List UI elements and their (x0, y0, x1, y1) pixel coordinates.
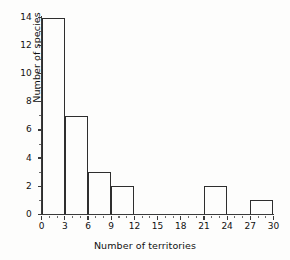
x-tick-major (111, 216, 112, 220)
x-tick-major (64, 216, 65, 220)
x-tick-label: 27 (240, 222, 260, 231)
histogram-bar (65, 116, 88, 214)
x-tick-label: 0 (32, 222, 52, 231)
x-tick-minor (196, 216, 197, 219)
x-tick-minor (219, 216, 220, 219)
x-tick-label: 30 (264, 222, 284, 231)
x-tick-minor (103, 216, 104, 219)
x-tick-minor (242, 216, 243, 219)
x-tick-minor (118, 216, 119, 219)
x-tick-major (250, 216, 251, 220)
histogram-bar (204, 186, 227, 214)
y-tick-label: 14 (10, 13, 32, 22)
y-axis-title: Number of species (31, 0, 42, 138)
x-tick-minor (173, 216, 174, 219)
x-tick-major (227, 216, 228, 220)
x-tick-minor (211, 216, 212, 219)
histogram-bar (250, 200, 273, 214)
x-tick-minor (126, 216, 127, 219)
x-tick-label: 9 (101, 222, 121, 231)
x-tick-label: 12 (124, 222, 144, 231)
x-tick-minor (72, 216, 73, 219)
x-tick-minor (80, 216, 81, 219)
y-tick-label: 12 (10, 41, 32, 50)
histogram-bar (88, 172, 111, 214)
x-tick-minor (57, 216, 58, 219)
y-tick-label: 10 (10, 69, 32, 78)
y-tick-label: 8 (10, 97, 32, 106)
x-tick-minor (165, 216, 166, 219)
x-tick-label: 6 (78, 222, 98, 231)
x-tick-label: 18 (171, 222, 191, 231)
x-tick-major (134, 216, 135, 220)
x-tick-minor (234, 216, 235, 219)
x-tick-minor (49, 216, 50, 219)
x-tick-minor (265, 216, 266, 219)
x-tick-label: 15 (148, 222, 168, 231)
x-tick-minor (258, 216, 259, 219)
x-tick-major (203, 216, 204, 220)
x-tick-major (273, 216, 274, 220)
x-tick-major (157, 216, 158, 220)
x-tick-label: 24 (217, 222, 237, 231)
x-tick-label: 21 (194, 222, 214, 231)
y-tick-label: 6 (10, 125, 32, 134)
x-tick-major (180, 216, 181, 220)
x-tick-label: 3 (55, 222, 75, 231)
histogram-bar (42, 18, 65, 215)
y-tick-label: 4 (10, 154, 32, 163)
x-tick-minor (142, 216, 143, 219)
histogram-bar (111, 186, 134, 214)
y-tick-label: 0 (10, 210, 32, 219)
histogram-figure: Number of species 02468101214 0369121518… (0, 0, 290, 260)
x-tick-major (41, 216, 42, 220)
x-tick-minor (188, 216, 189, 219)
x-tick-minor (149, 216, 150, 219)
x-axis-title: Number of territories (0, 240, 290, 251)
x-tick-minor (95, 216, 96, 219)
y-tick-label: 2 (10, 182, 32, 191)
x-tick-major (87, 216, 88, 220)
